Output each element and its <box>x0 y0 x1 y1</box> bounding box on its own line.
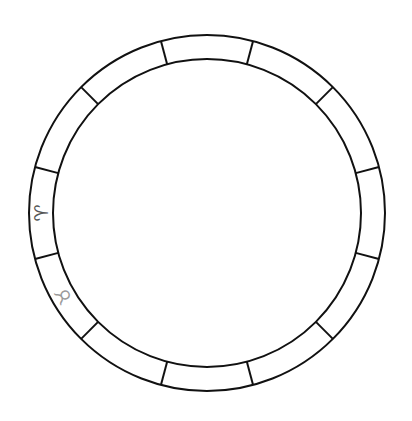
segment-divider <box>81 87 98 104</box>
segment-divider <box>35 253 58 259</box>
segment-divider <box>316 322 333 339</box>
segment-divider <box>356 167 379 173</box>
segment-divider <box>356 253 379 259</box>
segment-divider <box>161 362 167 385</box>
zodiac-wheel-canvas: ♈♉ <box>0 0 412 421</box>
segment-divider <box>316 87 333 104</box>
aries-glyph-icon: ♈ <box>30 204 52 221</box>
inner-ring <box>53 59 361 367</box>
segment-divider <box>81 322 98 339</box>
segment-divider <box>247 41 253 64</box>
segment-divider <box>247 362 253 385</box>
segment-divider <box>161 41 167 64</box>
zodiac-wheel: ♈♉ <box>0 0 412 421</box>
segment-dividers <box>35 41 379 385</box>
segment-divider <box>35 167 58 173</box>
